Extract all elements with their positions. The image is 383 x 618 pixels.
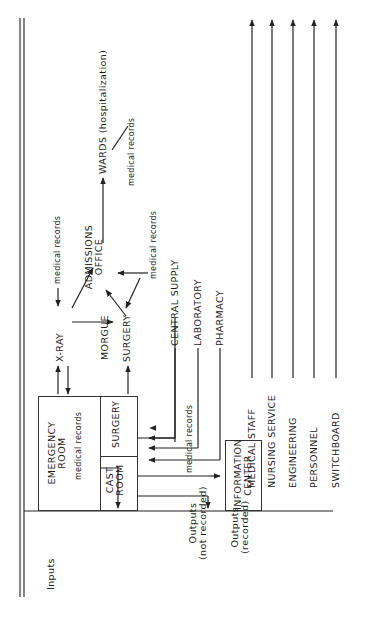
info-medical-records-label: medical records (186, 405, 194, 473)
department-medical-staff: MEDICAL STAFF (247, 409, 257, 488)
central-supply-node: CENTRAL SUPPLY (170, 260, 180, 346)
er-surgery-label: SURGERY (111, 400, 121, 448)
wards-medical-records-label: medical records (128, 118, 136, 186)
inputs-label: Inputs (46, 558, 56, 590)
outputs-not-recorded-label: Outputs (not recorded) (188, 486, 208, 560)
emergency-room-line2: ROOM (57, 418, 67, 488)
pharmacy-node: PHARMACY (215, 290, 225, 346)
hospital-flow-diagram: Inputs Outputs (not recorded) Outputs (r… (0, 0, 383, 618)
emergency-room-label: EMERGENCY ROOM (47, 418, 67, 488)
cast-room-label: CAST ROOM (105, 460, 125, 500)
department-engineering: ENGINEERING (288, 417, 298, 488)
er-divider (100, 396, 101, 511)
admissions-line2: OFFICE (94, 222, 104, 292)
department-personnel: PERSONNEL (309, 427, 319, 488)
er-medical-records-label: medical records (75, 412, 83, 480)
surgery-node: SURGERY (122, 314, 132, 362)
laboratory-node: LABORATORY (193, 279, 203, 346)
cast-room-line2: ROOM (115, 460, 125, 500)
morgue-node: MORGUE (100, 315, 110, 360)
admissions-office-node: ADMISSIONS OFFICE (84, 222, 104, 292)
department-switchboard: SWITCHBOARD (331, 412, 341, 488)
cast-surgery-divider (100, 456, 138, 457)
wards-node: WARDS (hospitalization) (98, 50, 108, 174)
department-nursing-service: NURSING SERVICE (267, 395, 277, 488)
admissions-medical-records-label: medical records (150, 211, 158, 279)
emergency-room-box: EMERGENCY ROOM medical records CAST ROOM… (38, 396, 138, 511)
outputs-not-recorded-line2: (not recorded) (198, 486, 208, 560)
xray-medical-records-label: medical records (54, 216, 62, 284)
xray-node: X-RAY (55, 333, 65, 362)
